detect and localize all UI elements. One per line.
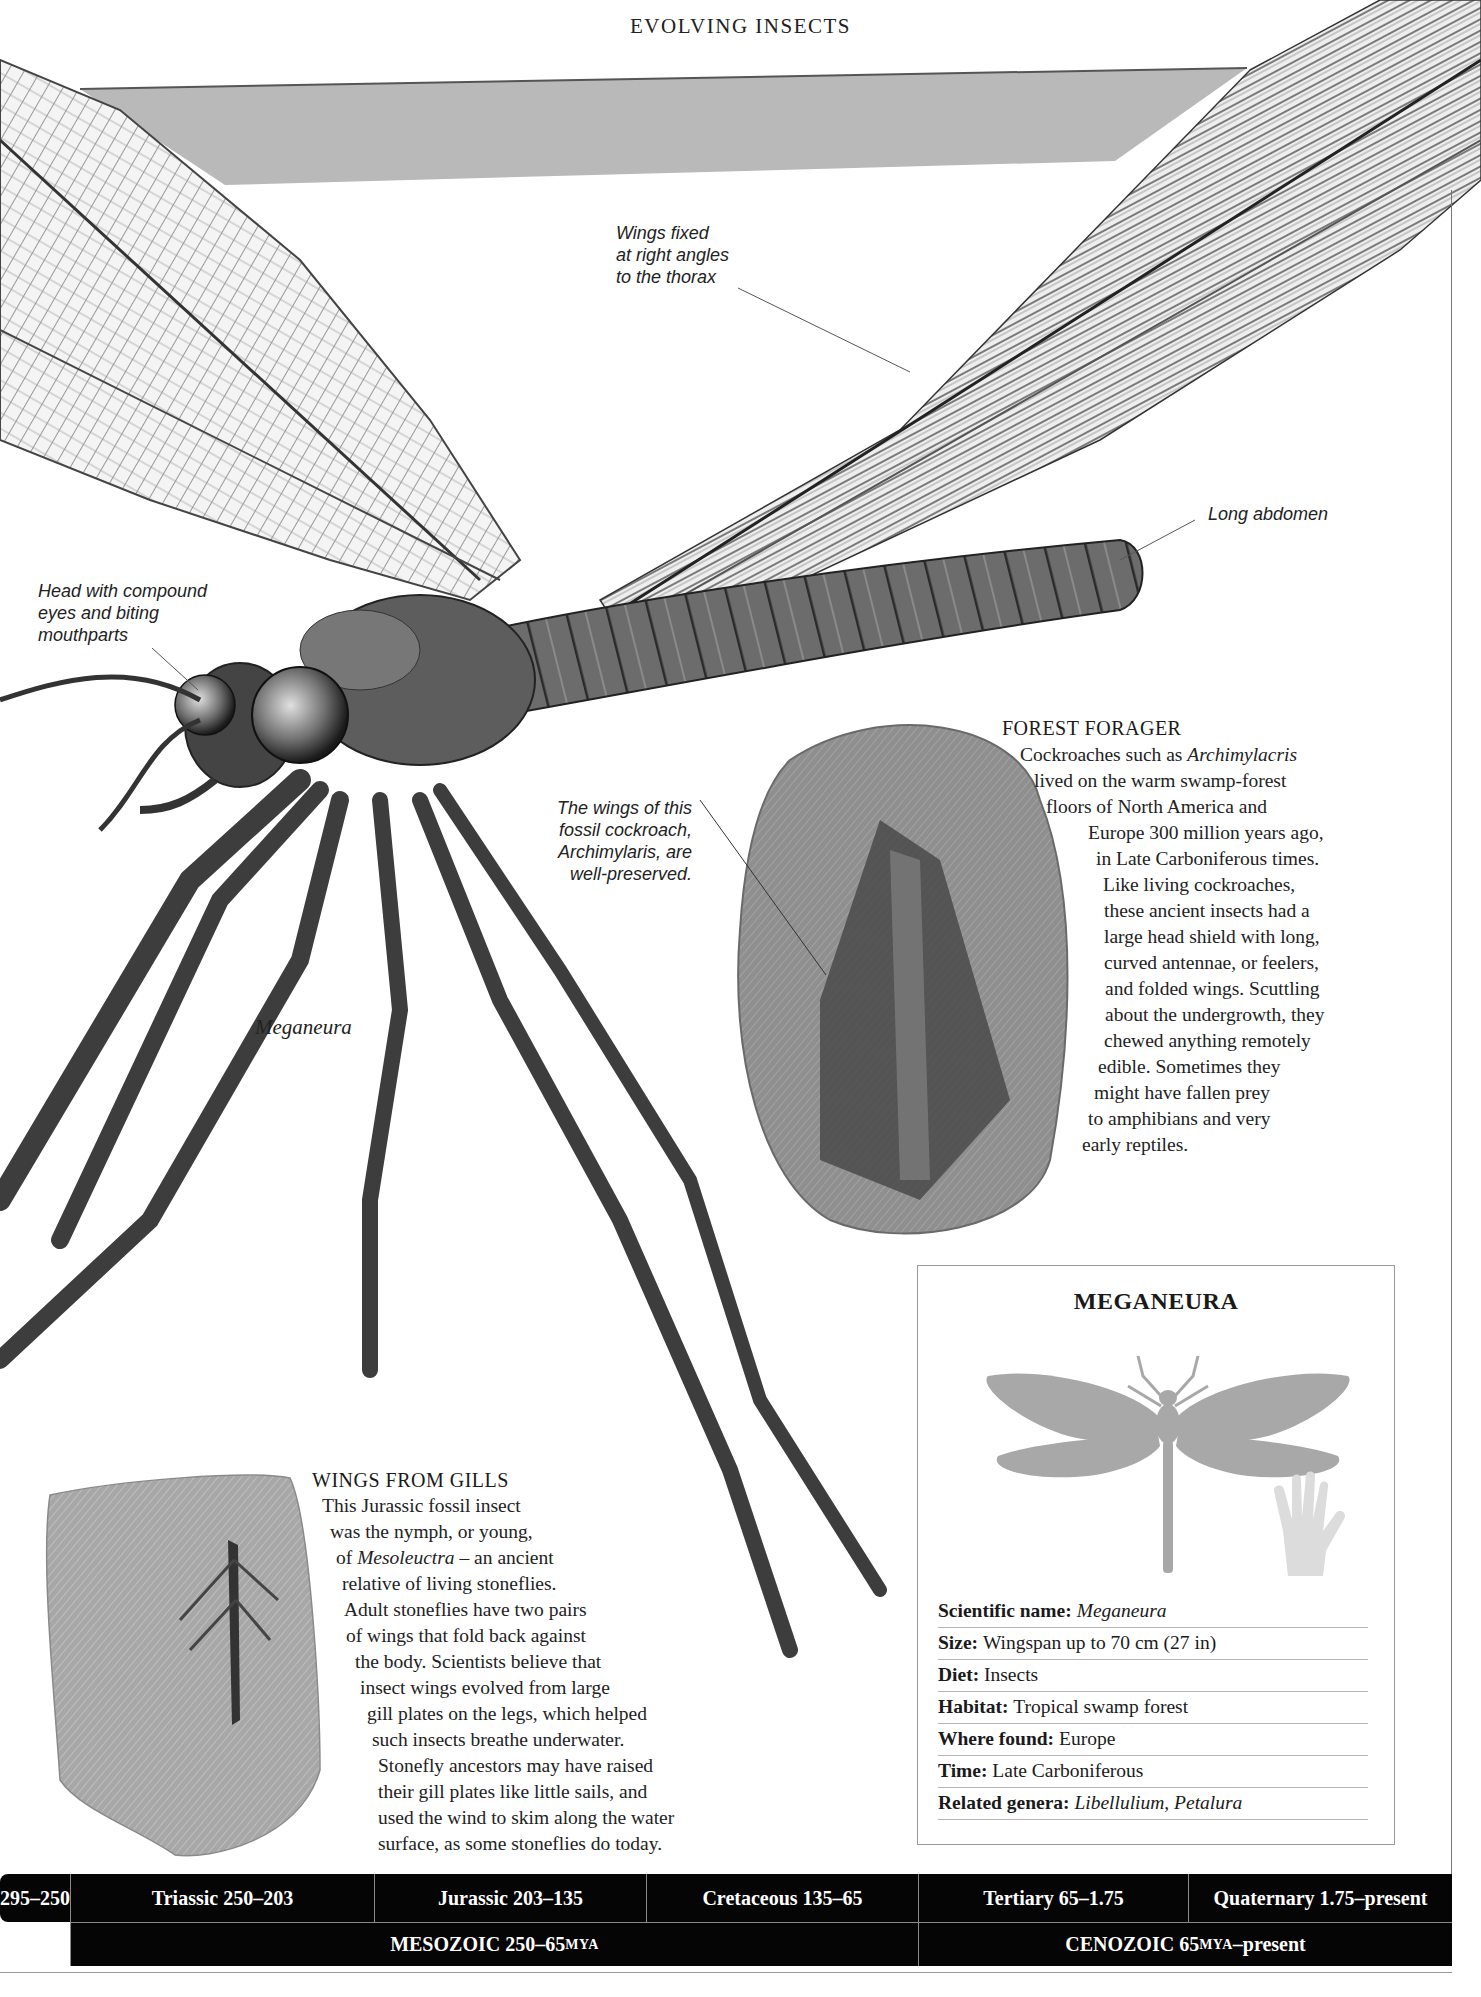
text-line: of wings that fold back against bbox=[0, 1623, 900, 1649]
text-line: the body. Scientists believe that bbox=[0, 1649, 900, 1675]
forest-forager-body: Cockroaches such as Archimylacrislived o… bbox=[0, 742, 1440, 1158]
hand-scale-icon bbox=[1268, 1471, 1348, 1581]
text-line: edible. Sometimes they bbox=[0, 1054, 1440, 1080]
text-line: these ancient insects had a bbox=[0, 898, 1440, 924]
text-line: about the undergrowth, they bbox=[0, 1002, 1440, 1028]
factbox-title: MEGANEURA bbox=[918, 1288, 1394, 1315]
timeline-period-jurassic: Jurassic 203–135 bbox=[374, 1874, 646, 1922]
fact-label: Diet: bbox=[938, 1664, 984, 1685]
text-line: was the nymph, or young, bbox=[0, 1519, 900, 1545]
fact-row: Diet: Insects bbox=[938, 1660, 1368, 1692]
text-line: to amphibians and very bbox=[0, 1106, 1440, 1132]
text-line: early reptiles. bbox=[0, 1132, 1440, 1158]
text-line: might have fallen prey bbox=[0, 1080, 1440, 1106]
callout-wings-fixed: Wings fixed at right angles to the thora… bbox=[616, 222, 729, 288]
fact-value: Insects bbox=[984, 1664, 1038, 1685]
text-line: Stonefly ancestors may have raised bbox=[0, 1753, 900, 1779]
fact-value: Wingspan up to 70 cm (27 in) bbox=[983, 1632, 1216, 1653]
timeline-period-tertiary: Tertiary 65–1.75 bbox=[918, 1874, 1188, 1922]
bottom-rule bbox=[0, 1972, 1452, 1973]
text-line: their gill plates like little sails, and bbox=[0, 1779, 900, 1805]
timeline-period-permian: 295–250 bbox=[0, 1874, 70, 1922]
fact-label: Where found: bbox=[938, 1728, 1059, 1749]
margin-rule bbox=[1451, 190, 1452, 1880]
text-line: Europe 300 million years ago, bbox=[0, 820, 1440, 846]
wings-from-gills-heading: WINGS FROM GILLS bbox=[312, 1468, 509, 1492]
text-line: such insects breathe underwater. bbox=[0, 1727, 900, 1753]
text-line: surface, as some stoneflies do today. bbox=[0, 1831, 900, 1857]
fact-row: Habitat: Tropical swamp forest bbox=[938, 1692, 1368, 1724]
fact-value: Europe bbox=[1059, 1728, 1115, 1749]
text-line: used the wind to skim along the water bbox=[0, 1805, 900, 1831]
fact-label: Time: bbox=[938, 1760, 992, 1781]
callout-head: Head with compound eyes and biting mouth… bbox=[38, 580, 207, 646]
fact-value: Tropical swamp forest bbox=[1013, 1696, 1188, 1717]
text-line: gill plates on the legs, which helped bbox=[0, 1701, 900, 1727]
fact-row: Related genera: Libellulium, Petalura bbox=[938, 1788, 1368, 1820]
fact-label: Size: bbox=[938, 1632, 983, 1653]
text-line: curved antennae, or feelers, bbox=[0, 950, 1440, 976]
fact-value: Late Carboniferous bbox=[992, 1760, 1143, 1781]
fact-label: Habitat: bbox=[938, 1696, 1013, 1717]
timeline-era-cenozoic: CENOZOIC 65 MYA–present bbox=[918, 1923, 1452, 1966]
timeline-period-triassic: Triassic 250–203 bbox=[70, 1874, 374, 1922]
text-line: of Mesoleuctra – an ancient bbox=[0, 1545, 900, 1571]
fact-row: Where found: Europe bbox=[938, 1724, 1368, 1756]
callout-long-abdomen: Long abdomen bbox=[1208, 503, 1328, 525]
fact-row: Scientific name: Meganeura bbox=[938, 1596, 1368, 1628]
text-line: This Jurassic fossil insect bbox=[0, 1493, 900, 1519]
meganeura-factbox: MEGANEURA Scientific name: MeganeuraSize… bbox=[917, 1265, 1395, 1845]
text-line: large head shield with long, bbox=[0, 924, 1440, 950]
fact-list: Scientific name: MeganeuraSize: Wingspan… bbox=[938, 1596, 1368, 1820]
fact-row: Size: Wingspan up to 70 cm (27 in) bbox=[938, 1628, 1368, 1660]
text-line: relative of living stoneflies. bbox=[0, 1571, 900, 1597]
timeline-period-cretaceous: Cretaceous 135–65 bbox=[646, 1874, 918, 1922]
text-line: in Late Carboniferous times. bbox=[0, 846, 1440, 872]
text-line: insect wings evolved from large bbox=[0, 1675, 900, 1701]
geologic-timeline: 295–250 Triassic 250–203 Jurassic 203–13… bbox=[0, 1874, 1452, 1966]
fact-value: Meganeura bbox=[1077, 1600, 1167, 1621]
text-line: Cockroaches such as Archimylacris bbox=[0, 742, 1440, 768]
text-line: and folded wings. Scuttling bbox=[0, 976, 1440, 1002]
fact-label: Scientific name: bbox=[938, 1600, 1077, 1621]
fact-row: Time: Late Carboniferous bbox=[938, 1756, 1368, 1788]
text-line: Like living cockroaches, bbox=[0, 872, 1440, 898]
text-line: chewed anything remotely bbox=[0, 1028, 1440, 1054]
timeline-era-mesozoic: MESOZOIC 250–65 MYA bbox=[70, 1923, 918, 1966]
text-line: Adult stoneflies have two pairs bbox=[0, 1597, 900, 1623]
fact-label: Related genera: bbox=[938, 1792, 1074, 1813]
text-line: floors of North America and bbox=[0, 794, 1440, 820]
timeline-period-quaternary: Quaternary 1.75–present bbox=[1188, 1874, 1452, 1922]
fact-value: Libellulium, Petalura bbox=[1074, 1792, 1242, 1813]
wings-from-gills-body: This Jurassic fossil insectwas the nymph… bbox=[0, 1493, 900, 1857]
text-line: lived on the warm swamp-forest bbox=[0, 768, 1440, 794]
forest-forager-heading: FOREST FORAGER bbox=[1002, 716, 1181, 740]
timeline-divider bbox=[70, 1922, 1452, 1923]
